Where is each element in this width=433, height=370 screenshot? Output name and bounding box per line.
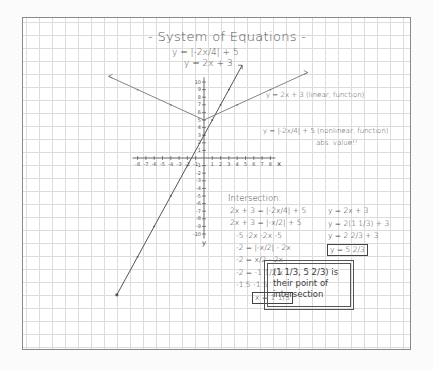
y-tick-label: 10 bbox=[195, 79, 201, 85]
y-tick-label: -2 bbox=[196, 170, 201, 176]
y-axis-label: y bbox=[202, 239, 206, 247]
x-tick-label: 5 bbox=[244, 161, 247, 167]
abs-point bbox=[170, 104, 172, 106]
right-step: y = 2 2/3 + 3 bbox=[328, 232, 379, 240]
x-tick-label: -8 bbox=[135, 161, 140, 167]
abs-point bbox=[203, 119, 205, 121]
y-tick-label: -10 bbox=[193, 231, 201, 237]
y-tick-label: 4 bbox=[198, 124, 201, 130]
linear-point bbox=[153, 226, 155, 228]
linear-point bbox=[228, 89, 230, 91]
left-step: -2 = |-x/2| - 2x bbox=[236, 244, 291, 252]
y-result: y = 5 2/3 bbox=[327, 244, 368, 256]
right-step: y = 2x + 3 bbox=[328, 207, 369, 215]
linear-point bbox=[220, 104, 222, 106]
y-tick-label: 7 bbox=[198, 101, 201, 107]
abs-line-label: y = |-2x/4| + 5 (nonlinear, function) bbox=[263, 128, 389, 135]
linear-line bbox=[117, 65, 242, 295]
linear-point bbox=[170, 195, 172, 197]
conclusion-text: (1 1/3, 5 2/3) is their point of interse… bbox=[267, 263, 351, 307]
right-step: y = 2(1 1/3) + 3 bbox=[328, 220, 389, 228]
x-tick-label: -3 bbox=[177, 161, 182, 167]
y-tick-label: -1 bbox=[196, 162, 201, 168]
y-tick-label: 8 bbox=[198, 94, 201, 100]
x-tick-label: 6 bbox=[252, 161, 255, 167]
left-step: 2x + 3 = |-2x/4| + 5 bbox=[230, 207, 306, 215]
linear-line-label: y = 2x + 3 (linear, function) bbox=[266, 92, 364, 99]
x-tick-label: 4 bbox=[236, 161, 239, 167]
x-tick-label: 7 bbox=[261, 161, 264, 167]
left-step: 2x + 3 = |-x/2| + 5 bbox=[230, 219, 301, 227]
linear-endpoint bbox=[115, 293, 118, 296]
x-tick-label: 8 bbox=[269, 161, 272, 167]
y-tick-label: -7 bbox=[196, 208, 201, 214]
y-tick-label: -3 bbox=[196, 177, 201, 183]
x-tick-label: -7 bbox=[143, 161, 148, 167]
linear-point bbox=[187, 165, 189, 167]
x-tick-label: 1 bbox=[211, 161, 214, 167]
linear-point bbox=[137, 256, 139, 258]
linear-point bbox=[211, 119, 213, 121]
x-tick-label: 3 bbox=[227, 161, 230, 167]
linear-point bbox=[203, 134, 205, 136]
y-tick-label: 9 bbox=[198, 86, 201, 92]
y-tick-label: -9 bbox=[196, 223, 201, 229]
x-tick-label: -4 bbox=[168, 161, 173, 167]
left-step: -1.5 -1.5 bbox=[236, 281, 268, 289]
y-tick-label: 1 bbox=[198, 147, 201, 153]
y-tick-label: 3 bbox=[198, 132, 201, 138]
arrow-right-icon bbox=[304, 71, 308, 75]
y-tick-label: -6 bbox=[196, 200, 201, 206]
x-axis-label: x bbox=[277, 160, 281, 168]
x-tick-label: -5 bbox=[160, 161, 165, 167]
abs-point bbox=[137, 89, 139, 91]
arrow-left-icon bbox=[109, 74, 113, 78]
y-tick-label: -5 bbox=[196, 193, 201, 199]
y-tick-label: -4 bbox=[196, 185, 201, 191]
intersection-heading: Intersection: bbox=[228, 194, 281, 203]
y-tick-label: 6 bbox=[198, 109, 201, 115]
abs-point bbox=[236, 104, 238, 106]
coordinate-graph: -8-7-6-5-4-3-2-112345678x12345678910-1-2… bbox=[0, 0, 433, 370]
x-tick-label: -6 bbox=[152, 161, 157, 167]
left-step: -5 -2x -2x -5 bbox=[236, 232, 282, 240]
abs-value-note: abs. value!! bbox=[316, 140, 358, 147]
y-tick-label: -8 bbox=[196, 215, 201, 221]
conclusion-box: (1 1/3, 5 2/3) is their point of interse… bbox=[264, 260, 354, 310]
x-tick-label: 2 bbox=[219, 161, 222, 167]
